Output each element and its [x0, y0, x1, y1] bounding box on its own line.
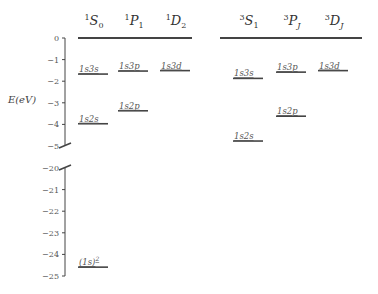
triplet-level-label: 1s2p [277, 106, 298, 116]
triplet-level-label: 1s2s [234, 131, 254, 141]
y-tick-label: −20 [42, 164, 59, 173]
singlet-level-label: (1s)2 [79, 255, 99, 267]
triplet-column-header: 3DJ [325, 13, 345, 30]
y-tick-label: −21 [42, 186, 59, 195]
singlet-column-header: 1P1 [125, 13, 144, 30]
y-tick-label: −25 [42, 272, 59, 281]
singlet-level-label: 1s3p [119, 61, 140, 71]
singlet-level-label: 1s2p [119, 101, 140, 111]
singlet-level-label: 1s3d [161, 61, 182, 71]
y-tick-label: −22 [42, 207, 59, 216]
y-tick-label: −2 [47, 77, 59, 86]
y-tick-label: −24 [42, 250, 59, 259]
y-tick-label: 0 [54, 34, 59, 43]
singlet-column-header: 1S0 [84, 13, 103, 30]
singlet-level-label: 1s2s [79, 114, 99, 124]
triplet-column-header: 3PJ [283, 13, 301, 30]
triplet-level-label: 1s3p [277, 62, 298, 72]
triplet-column-header: 3S1 [239, 13, 258, 30]
energy-level-diagram: 0−1−2−3−4−5−20−21−22−23−24−25E(eV)1S01P1… [0, 0, 378, 294]
y-tick-label: −23 [42, 229, 59, 238]
y-tick-label: −1 [47, 56, 59, 65]
triplet-level-label: 1s3d [319, 61, 340, 71]
singlet-level-label: 1s3s [79, 64, 99, 74]
triplet-level-label: 1s3s [234, 68, 254, 78]
y-tick-label: −4 [47, 120, 59, 129]
y-tick-label: −5 [47, 142, 59, 151]
singlet-column-header: 1D2 [166, 13, 187, 30]
y-axis-label: E(eV) [7, 94, 36, 105]
y-tick-label: −3 [47, 99, 59, 108]
